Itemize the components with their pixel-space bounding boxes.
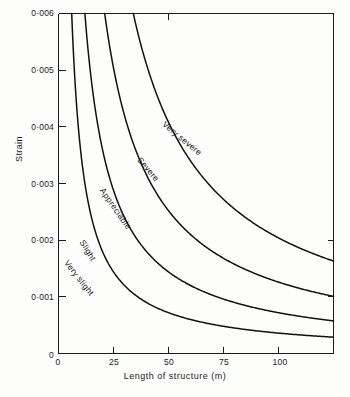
ytick-label-0002: 0·002	[16, 235, 54, 245]
x-tick-marks	[59, 347, 279, 354]
curve-slight	[85, 14, 334, 321]
xtick-label-0: 0	[56, 357, 61, 367]
ytick-label-0001: 0·001	[16, 292, 54, 302]
curve-appreciable	[105, 14, 334, 297]
ytick-label-0003: 0·003	[16, 179, 54, 189]
axis-frame	[59, 14, 334, 354]
y-tick-marks-right	[328, 240, 334, 297]
xtick-label-25: 25	[109, 357, 119, 367]
xtick-label-50: 50	[164, 357, 174, 367]
ytick-label-0: 0	[16, 350, 54, 360]
x-axis-title: Length of structure (m)	[0, 371, 350, 381]
y-axis-title: Strain	[14, 136, 24, 162]
chart-figure: 0·006 0·005 0·004 0·003 0·002 0·001 0 0 …	[0, 0, 350, 397]
ytick-label-0005: 0·005	[16, 65, 54, 75]
curve-very-slight	[72, 14, 334, 338]
plot-area	[0, 0, 350, 397]
curve-group	[72, 14, 334, 338]
y-tick-marks	[59, 14, 66, 297]
xtick-label-75: 75	[219, 357, 229, 367]
xtick-label-100: 100	[273, 357, 288, 367]
curve-very-severe	[133, 14, 333, 262]
ytick-label-0006: 0·006	[16, 8, 54, 18]
ytick-label-0004: 0·004	[16, 122, 54, 132]
